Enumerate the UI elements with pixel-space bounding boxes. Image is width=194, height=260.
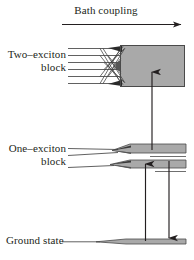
ground-state-level: [62, 239, 186, 244]
two-exciton-discrete-levels: [68, 49, 120, 84]
two-exciton-block: [68, 46, 185, 87]
ground-state-band: [96, 239, 186, 244]
one-exciton-band-lower: [110, 160, 186, 168]
two-exciton-block-label-line2: block: [8, 61, 66, 74]
two-exciton-block-label-line1: Two–exciton: [8, 48, 66, 61]
one-exciton-block-label-line2: block: [9, 155, 66, 168]
one-exciton-block-label-line1: One–exciton: [9, 142, 66, 155]
energy-level-diagram-figure: Bath coupling Two–exciton block One–exci…: [0, 0, 194, 260]
bath-coupling-label: Bath coupling: [0, 4, 194, 17]
two-exciton-block-label: Two–exciton block: [8, 48, 66, 73]
one-exciton-block-label: One–exciton block: [9, 142, 66, 167]
ground-state-label: Ground state: [6, 234, 64, 247]
diagram-canvas: [0, 0, 194, 260]
one-exciton-block: [68, 144, 186, 172]
